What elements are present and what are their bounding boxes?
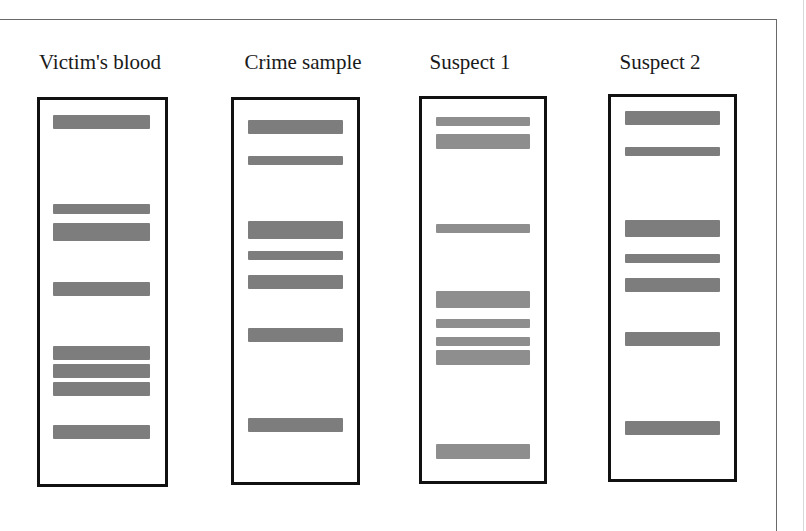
dna-band [53,346,150,360]
lane-label: Crime sample [244,50,361,75]
lane-label: Suspect 1 [429,50,510,75]
figure-frame-top-border [0,19,777,20]
dna-band [53,115,150,129]
dna-band [625,220,720,237]
figure-frame-right-border [776,19,777,531]
dna-band [436,444,530,459]
gel-lane [419,96,547,484]
dna-band [436,134,530,149]
dna-band [436,224,530,233]
dna-band [53,364,150,378]
dna-band [53,282,150,296]
dna-band [436,291,530,308]
dna-band [625,332,720,346]
dna-band [248,418,343,432]
dna-band [436,337,530,346]
dna-band [625,111,720,125]
dna-band [53,204,150,214]
dna-band [248,328,343,342]
dna-band [436,117,530,126]
dna-band [436,350,530,365]
dna-band [625,421,720,435]
dna-band [53,425,150,439]
dna-band [625,278,720,292]
dna-band [248,156,343,165]
dna-band [625,147,720,156]
dna-band [625,254,720,263]
page-edge-line [803,0,804,531]
dna-band [248,275,343,289]
dna-band [248,221,343,239]
lane-label: Victim's blood [39,50,161,75]
lane-label: Suspect 2 [619,50,700,75]
dna-band [248,251,343,260]
dna-band [53,382,150,396]
dna-band [53,223,150,241]
dna-band [436,319,530,328]
dna-band [248,120,343,134]
